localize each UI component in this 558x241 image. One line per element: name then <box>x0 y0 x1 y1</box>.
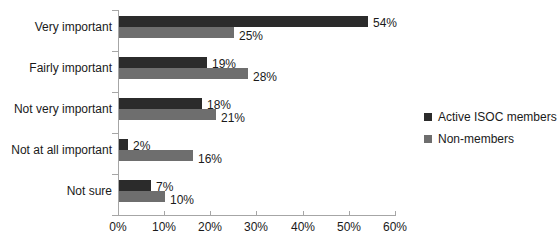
y-axis-tick <box>112 92 118 93</box>
bar-series0-cat1 <box>119 57 207 68</box>
y-axis-tick <box>112 51 118 52</box>
legend-item-active-isoc-members: Active ISOC members <box>424 106 557 128</box>
bar-series1-cat0 <box>119 27 234 38</box>
y-axis-tick <box>112 10 118 11</box>
x-axis-line <box>118 215 396 216</box>
chart-legend: Active ISOC members Non-members <box>424 106 557 150</box>
x-axis-label-1: 10% <box>142 220 186 234</box>
x-axis-tick <box>164 211 165 216</box>
bar-series0-cat2 <box>119 98 202 109</box>
bar-series0-cat0 <box>119 16 368 27</box>
bar-series1-cat2 <box>119 109 216 120</box>
category-label-very-important: Very important <box>0 20 112 34</box>
x-axis-tick <box>210 211 211 216</box>
x-axis-tick <box>303 211 304 216</box>
x-axis-label-5: 50% <box>327 220 371 234</box>
bar-value-label-series1-cat0: 25% <box>239 30 263 42</box>
legend-label-series1: Non-members <box>438 132 514 146</box>
x-axis-label-0: 0% <box>96 220 140 234</box>
bar-series0-cat4 <box>119 180 151 191</box>
legend-label-series0: Active ISOC members <box>438 110 557 124</box>
bar-value-label-series0-cat0: 54% <box>373 17 397 29</box>
bar-series0-cat3 <box>119 139 128 150</box>
bar-value-label-series1-cat4: 10% <box>170 194 194 206</box>
category-label-not-very-important: Not very important <box>0 102 112 116</box>
category-label-fairly-important: Fairly important <box>0 61 112 75</box>
bar-value-label-series1-cat1: 28% <box>253 71 277 83</box>
legend-swatch-icon-series0 <box>424 113 432 121</box>
bar-series1-cat3 <box>119 150 193 161</box>
y-axis-tick <box>112 174 118 175</box>
legend-swatch-icon-series1 <box>424 135 432 143</box>
category-label-not-at-all-important: Not at all important <box>0 143 112 157</box>
legend-item-non-members: Non-members <box>424 128 557 150</box>
category-label-not-sure: Not sure <box>0 184 112 198</box>
x-axis-label-2: 20% <box>188 220 232 234</box>
y-axis-tick <box>112 133 118 134</box>
x-axis-tick <box>349 211 350 216</box>
x-axis-tick <box>395 211 396 216</box>
x-axis-label-3: 30% <box>234 220 278 234</box>
bar-series1-cat4 <box>119 191 165 202</box>
bar-value-label-series1-cat3: 16% <box>198 153 222 165</box>
x-axis-label-6: 60% <box>373 220 417 234</box>
x-axis-tick <box>256 211 257 216</box>
bar-chart: Very important 54% 25% Fairly important … <box>0 0 558 241</box>
bar-series1-cat1 <box>119 68 248 79</box>
x-axis-label-4: 40% <box>281 220 325 234</box>
x-axis-tick <box>118 211 119 216</box>
bar-value-label-series1-cat2: 21% <box>221 112 245 124</box>
